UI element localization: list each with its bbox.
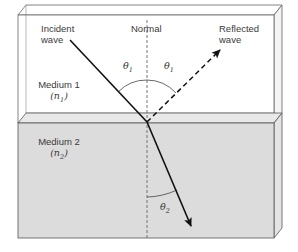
theta2-label: θ2 xyxy=(160,201,170,215)
medium-1-label: Medium 1 (n1) xyxy=(33,79,85,106)
reflected-wave-label: Reflected wave xyxy=(219,23,259,45)
medium-2-block xyxy=(18,113,282,238)
incident-wave-label: Incident wave xyxy=(41,23,74,45)
normal-label: Normal xyxy=(131,23,162,34)
theta1-incident-label: θ1 xyxy=(123,60,133,74)
theta1-reflected-label: θ1 xyxy=(164,60,174,74)
medium-2-label: Medium 2 (n2) xyxy=(33,136,85,163)
